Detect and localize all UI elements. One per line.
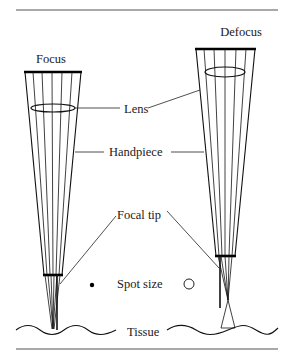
defocus-handpiece: Defocus	[167, 25, 278, 335]
defocus-title: Defocus	[220, 25, 262, 39]
focus-handpiece: Focus	[16, 52, 116, 335]
focal-tip-label: Focal tip	[117, 208, 161, 222]
focus-title: Focus	[36, 52, 66, 66]
spot-size-label: Spot size	[117, 277, 163, 291]
focus-right-side	[62, 72, 81, 275]
handpiece-label: Handpiece	[109, 145, 163, 159]
laser-handpiece-diagram: Focus Defocus	[0, 0, 294, 358]
focus-spot-dot	[90, 283, 94, 287]
annotations: Lens Handpiece Focal tip Spot size Tissu…	[60, 90, 219, 339]
defocus-right-side	[235, 49, 255, 256]
lens-label: Lens	[124, 102, 148, 116]
focal-tip-leader-right	[167, 211, 219, 268]
focus-left-side	[25, 72, 44, 275]
focus-lens	[31, 104, 75, 112]
defocus-spot-circle	[184, 279, 194, 289]
defocus-tissue-wave	[167, 326, 278, 335]
tissue-label: Tissue	[127, 325, 160, 339]
focus-tissue-wave	[16, 326, 116, 335]
focal-tip-leader-left	[60, 216, 116, 284]
lens-leader-right	[148, 90, 200, 108]
